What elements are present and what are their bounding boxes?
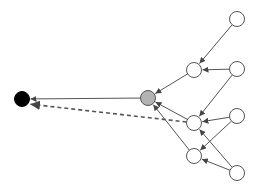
node-src1 (230, 12, 245, 27)
node-mid1 (187, 63, 202, 78)
node-src4 (230, 166, 245, 181)
node-hub (141, 91, 156, 106)
edge-src4-to-mid3 (202, 159, 230, 170)
node-mid2 (187, 116, 202, 131)
node-target (15, 92, 30, 107)
node-src3 (230, 109, 245, 124)
edge-mid2-to-hub (155, 102, 187, 119)
edge-mid2-to-target-dashed (30, 104, 186, 122)
node-mid3 (187, 149, 202, 164)
edge-hub-to-target (30, 98, 140, 99)
edges-layer (30, 25, 232, 171)
graph-diagram (0, 0, 259, 193)
edge-src2-to-mid2 (199, 75, 232, 116)
node-src2 (230, 62, 245, 77)
nodes-layer (15, 12, 245, 181)
edge-src1-to-mid1 (199, 25, 232, 64)
edge-src3-to-mid2 (202, 117, 229, 121)
edge-src2-to-mid1 (202, 69, 229, 70)
edge-mid3-to-hub (153, 105, 189, 150)
edge-mid1-to-hub (155, 74, 187, 94)
